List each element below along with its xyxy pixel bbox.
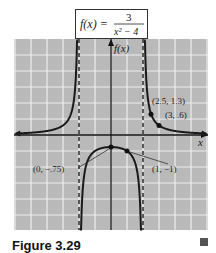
- svg-text:(3, .6): (3, .6): [165, 110, 187, 120]
- function-title-box: f(x) = 3 x² − 4: [75, 9, 148, 39]
- title-denominator: x² − 4: [113, 26, 138, 37]
- title-numerator: 3: [126, 11, 132, 23]
- y-axis-label: f(x): [114, 42, 130, 55]
- end-mark-icon: [200, 238, 208, 246]
- svg-text:(0, −.75): (0, −.75): [33, 164, 64, 174]
- x-axis-label: x: [197, 136, 203, 148]
- figure-caption: Figure 3.29: [12, 238, 81, 253]
- svg-text:(2.5, 1.3): (2.5, 1.3): [152, 96, 185, 106]
- title-lhs: f(x) =: [80, 17, 108, 31]
- svg-text:(1, −1): (1, −1): [152, 164, 177, 174]
